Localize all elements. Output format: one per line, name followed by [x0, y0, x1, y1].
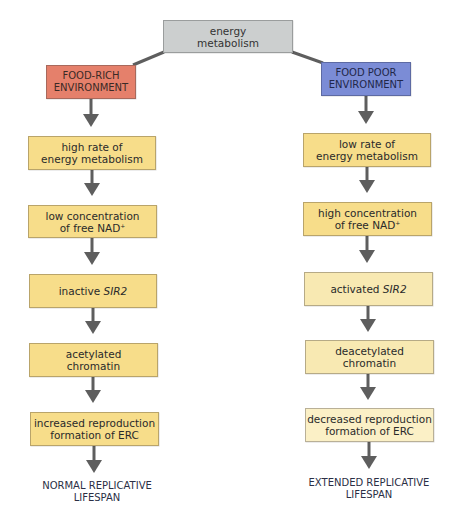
step-text-line1: high concentration	[318, 207, 417, 219]
left-step-high-rate-metabolism: high rate of energy metabolism	[28, 136, 156, 170]
right-step-deacetylated-chromatin: deacetylated chromatin	[305, 340, 434, 374]
gene-name-sir2: SIR2	[104, 285, 128, 297]
root-line1: energy	[210, 25, 247, 37]
step-text-line1: acetylated	[66, 348, 122, 360]
outcome-line2: LIFESPAN	[346, 489, 393, 500]
food-rich-environment-box: FOOD-RICH ENVIRONMENT	[46, 65, 136, 99]
outcome-line1: EXTENDED REPLICATIVE	[309, 477, 430, 488]
right-outcome-extended-lifespan: EXTENDED REPLICATIVE LIFESPAN	[293, 477, 445, 501]
superscript-plus: +	[395, 219, 400, 226]
food-poor-environment-box: FOOD POOR ENVIRONMENT	[321, 62, 411, 96]
food-rich-line2: ENVIRONMENT	[54, 82, 128, 93]
left-step-acetylated-chromatin: acetylated chromatin	[29, 343, 158, 377]
right-step-low-rate-metabolism: low rate of energy metabolism	[303, 133, 431, 167]
left-outcome-normal-lifespan: NORMAL REPLICATIVE LIFESPAN	[22, 480, 172, 504]
step-text-line2: formation of ERC	[50, 429, 139, 441]
step-text-line1: low concentration	[46, 210, 140, 222]
step-text-line2: of free NAD	[335, 219, 396, 231]
step-text-line1: increased reproduction	[34, 417, 155, 429]
food-poor-line1: FOOD POOR	[335, 67, 396, 78]
left-step-increased-reproduction: increased reproduction formation of ERC	[30, 412, 159, 446]
food-poor-line2: ENVIRONMENT	[329, 79, 403, 90]
left-step-low-nad: low concentration of free NAD+	[28, 205, 157, 238]
right-step-high-nad: high concentration of free NAD+	[303, 202, 432, 236]
outcome-line2: LIFESPAN	[74, 492, 121, 503]
superscript-plus: +	[120, 221, 125, 228]
step-text-line2: energy metabolism	[316, 150, 418, 162]
energy-metabolism-box: energy metabolism	[163, 20, 293, 53]
right-step-activated-sir2: activated SIR2	[304, 272, 433, 306]
step-text: activated	[330, 283, 382, 295]
root-to-left-connector	[133, 52, 164, 65]
root-to-right-connector	[292, 52, 323, 63]
food-rich-line1: FOOD-RICH	[62, 70, 119, 81]
step-text-line1: deacetylated	[335, 345, 404, 357]
step-text-line1: high rate of	[61, 141, 122, 153]
step-text-line1: low rate of	[339, 138, 395, 150]
gene-name-sir2: SIR2	[383, 283, 407, 295]
outcome-line1: NORMAL REPLICATIVE	[42, 480, 152, 491]
step-text-line2: chromatin	[343, 357, 396, 369]
step-text-line1: decreased reproduction	[307, 413, 432, 425]
step-text: inactive	[59, 285, 104, 297]
step-text-line2: formation of ERC	[325, 425, 414, 437]
root-line2: metabolism	[197, 37, 259, 49]
step-text-line2: chromatin	[67, 360, 120, 372]
left-step-inactive-sir2: inactive SIR2	[29, 274, 157, 308]
step-text-line2: energy metabolism	[41, 153, 143, 165]
right-step-decreased-reproduction: decreased reproduction formation of ERC	[305, 408, 434, 442]
step-text-line2: of free NAD	[60, 222, 121, 234]
